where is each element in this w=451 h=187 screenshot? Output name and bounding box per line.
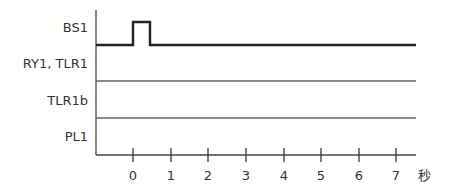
signal-label-bs1: BS1 bbox=[63, 20, 88, 35]
tick-label-4: 4 bbox=[280, 168, 288, 183]
tick-label-2: 2 bbox=[204, 168, 212, 183]
signal-label-pl1: PL1 bbox=[65, 129, 88, 144]
tick-label-0: 0 bbox=[129, 168, 137, 183]
tick-label-1: 1 bbox=[167, 168, 175, 183]
time-unit-label: 秒 bbox=[418, 168, 431, 183]
signal-label-ry1-tlr1: RY1, TLR1 bbox=[23, 56, 88, 71]
tick-label-3: 3 bbox=[242, 168, 250, 183]
timing-chart: BS1 RY1, TLR1 TLR1b PL1 0 1 2 3 4 5 6 7 … bbox=[0, 0, 451, 187]
tick-label-5: 5 bbox=[317, 168, 325, 183]
signal-bs1-waveform bbox=[96, 22, 416, 45]
tick-label-6: 6 bbox=[355, 168, 363, 183]
tick-label-7: 7 bbox=[392, 168, 400, 183]
signal-label-tlr1b: TLR1b bbox=[46, 93, 88, 108]
